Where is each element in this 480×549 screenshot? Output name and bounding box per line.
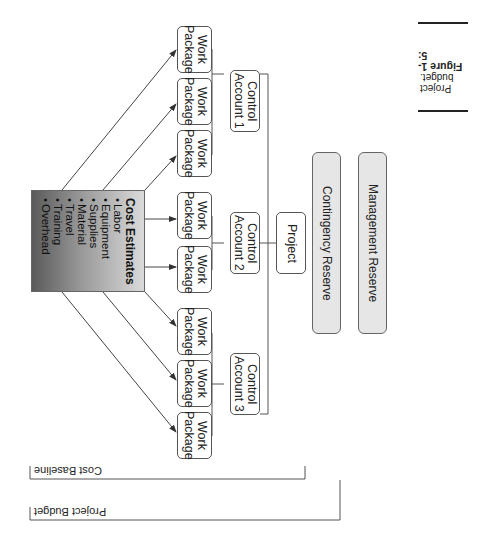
cost-estimates-title: Cost Estimates [124,198,136,285]
contingency-reserve: Contingency Reserve [312,152,341,334]
control-account-3: ControlAccount 3 [230,353,260,415]
work-package-1-2: WorkPackage [177,78,212,125]
cost-baseline-label: Cost Baseline [34,465,102,477]
work-package-2-1: WorkPackage [177,192,212,239]
control-account-2: ControlAccount 2 [230,212,260,274]
work-package-2-2: WorkPackage [177,246,212,293]
caption-rule-top [418,22,468,24]
caption-text: Project budget. [420,72,468,94]
project-budget-label: Project Budget [34,506,106,518]
cost-item: Material [76,198,88,285]
control-account-1: ControlAccount 1 [230,70,260,132]
caption-rule-bottom [418,110,468,112]
cost-item: Training [52,198,64,285]
figure-number: Figure 1-5: [418,50,462,73]
work-package-1-3: WorkPackage [177,130,212,177]
management-reserve: Management Reserve [358,152,387,334]
work-package-3-2: WorkPackage [177,360,212,407]
cost-item: Supplies [88,198,100,285]
work-package-3-3: WorkPackage [177,412,212,459]
cost-estimates-box: Cost Estimates Labor Equipment Supplies … [31,190,145,292]
work-package-3-1: WorkPackage [177,308,212,355]
figure-caption: Project budget. Figure 1-5: [418,22,468,117]
project-node: Project [276,212,306,274]
work-package-1-1: WorkPackage [177,26,212,73]
cost-item: Overhead [40,198,52,285]
cost-item: Travel [64,198,76,285]
cost-item: Equipment [100,198,112,285]
